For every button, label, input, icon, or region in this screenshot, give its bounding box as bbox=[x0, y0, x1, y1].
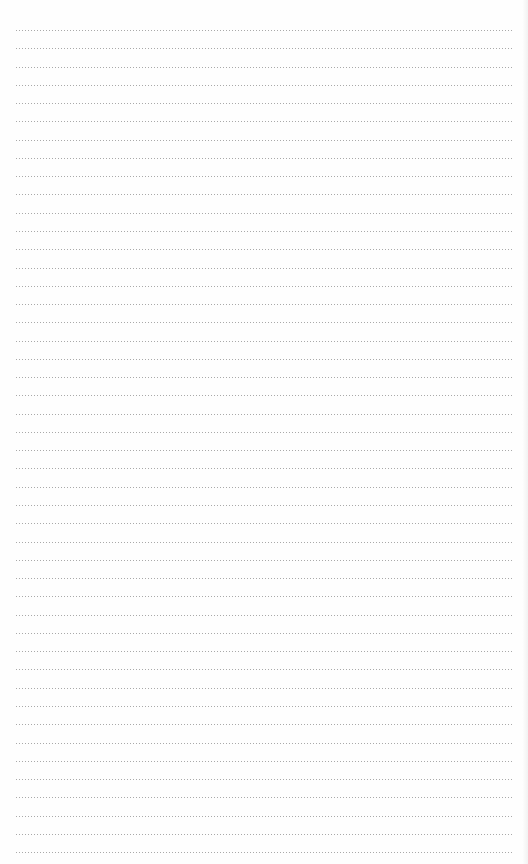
ruled-line bbox=[16, 322, 512, 323]
ruled-line bbox=[16, 743, 512, 744]
ruled-line bbox=[16, 505, 512, 506]
ruled-line bbox=[16, 67, 512, 68]
ruled-line bbox=[16, 377, 512, 378]
ruled-line bbox=[16, 779, 512, 780]
ruled-line bbox=[16, 560, 512, 561]
ruled-line bbox=[16, 194, 512, 195]
page-edge-shadow bbox=[522, 0, 528, 864]
ruled-line bbox=[16, 85, 512, 86]
ruled-line bbox=[16, 669, 512, 670]
ruled-line bbox=[16, 140, 512, 141]
ruled-line bbox=[16, 286, 512, 287]
ruled-line bbox=[16, 341, 512, 342]
ruled-lines bbox=[16, 0, 512, 864]
ruled-line bbox=[16, 852, 512, 853]
ruled-line bbox=[16, 158, 512, 159]
ruled-line bbox=[16, 213, 512, 214]
ruled-line bbox=[16, 249, 512, 250]
ruled-line bbox=[16, 359, 512, 360]
ruled-line bbox=[16, 395, 512, 396]
ruled-line bbox=[16, 706, 512, 707]
ruled-line bbox=[16, 176, 512, 177]
ruled-line bbox=[16, 523, 512, 524]
ruled-line bbox=[16, 651, 512, 652]
ruled-line bbox=[16, 231, 512, 232]
ruled-line bbox=[16, 797, 512, 798]
ruled-line bbox=[16, 834, 512, 835]
ruled-paper-page bbox=[0, 0, 528, 864]
ruled-line bbox=[16, 103, 512, 104]
ruled-line bbox=[16, 450, 512, 451]
ruled-line bbox=[16, 816, 512, 817]
ruled-line bbox=[16, 761, 512, 762]
ruled-line bbox=[16, 121, 512, 122]
ruled-line bbox=[16, 432, 512, 433]
ruled-line bbox=[16, 615, 512, 616]
ruled-line bbox=[16, 724, 512, 725]
ruled-line bbox=[16, 268, 512, 269]
ruled-line bbox=[16, 304, 512, 305]
ruled-line bbox=[16, 578, 512, 579]
ruled-line bbox=[16, 30, 512, 31]
ruled-line bbox=[16, 48, 512, 49]
ruled-line bbox=[16, 468, 512, 469]
ruled-line bbox=[16, 414, 512, 415]
ruled-line bbox=[16, 596, 512, 597]
ruled-line bbox=[16, 542, 512, 543]
ruled-line bbox=[16, 487, 512, 488]
ruled-line bbox=[16, 633, 512, 634]
ruled-line bbox=[16, 688, 512, 689]
